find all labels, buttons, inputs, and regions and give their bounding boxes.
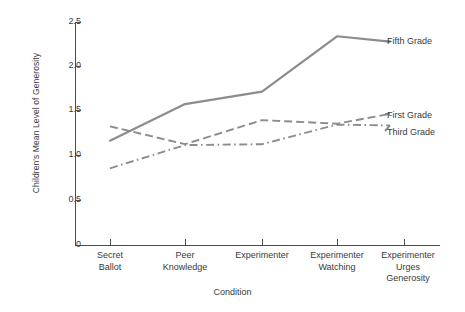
legend-label-first-grade: First Grade xyxy=(387,110,432,120)
plot-area xyxy=(0,0,465,312)
series-line-third-grade xyxy=(110,125,390,169)
legend-label-third-grade: Third Grade xyxy=(387,127,435,137)
legend-label-fifth-grade: Fifth Grade xyxy=(387,36,432,46)
series-line-first-grade xyxy=(110,114,390,144)
generosity-line-chart: Children's Mean Level of Generosity 2.5 … xyxy=(0,0,465,312)
